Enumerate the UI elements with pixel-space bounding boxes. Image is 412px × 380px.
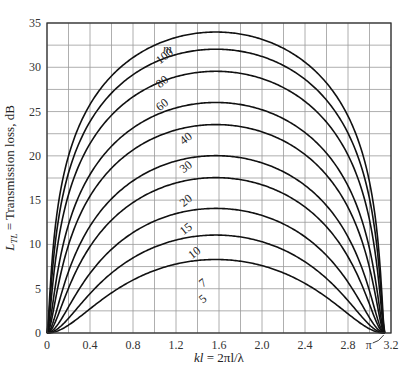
pi-annotation: π — [366, 335, 384, 352]
x-tick-label: 3.2 — [384, 338, 399, 352]
pi-label: π — [366, 338, 372, 352]
curve-m-100 — [47, 32, 385, 333]
y-tick-label: 0 — [35, 326, 41, 340]
x-tick-label: 2.0 — [255, 338, 270, 352]
x-tick-label: 0.8 — [126, 338, 141, 352]
y-tick-label: 20 — [29, 149, 41, 163]
y-tick-label: 25 — [29, 105, 41, 119]
y-axis-ticks: 05101520253035 — [29, 16, 41, 340]
curve-label-10: 10 — [185, 243, 203, 261]
x-tick-label: 0 — [44, 338, 50, 352]
legend-title-m: m — [163, 42, 172, 56]
curve-label-40: 40 — [177, 129, 195, 147]
transmission-loss-chart: 00.40.81.21.62.02.42.83.2 05101520253035… — [0, 0, 412, 380]
curve-m-7 — [47, 235, 385, 333]
y-tick-label: 5 — [35, 282, 41, 296]
curve-label-5: 5 — [196, 291, 209, 306]
curve-label-7: 7 — [196, 275, 209, 290]
pi-arrow — [373, 335, 384, 343]
curve-label-80: 80 — [153, 72, 171, 90]
curve-m-15 — [47, 178, 385, 333]
x-tick-label: 1.2 — [169, 338, 184, 352]
x-axis-title: kl = 2πl/λ — [194, 350, 245, 365]
curve-m-5 — [47, 259, 385, 333]
y-axis-title: LTL = Transmission loss, dB — [2, 105, 19, 252]
x-tick-label: 2.8 — [341, 338, 356, 352]
curve-m-10 — [47, 208, 385, 333]
curve-m-40 — [47, 102, 385, 333]
curves — [47, 32, 385, 333]
curve-label-20: 20 — [177, 191, 195, 209]
y-tick-label: 10 — [29, 237, 41, 251]
y-tick-label: 30 — [29, 60, 41, 74]
x-tick-label: 0.4 — [83, 338, 98, 352]
y-tick-label: 35 — [29, 16, 41, 30]
x-tick-label: 2.4 — [298, 338, 313, 352]
y-tick-label: 15 — [29, 193, 41, 207]
